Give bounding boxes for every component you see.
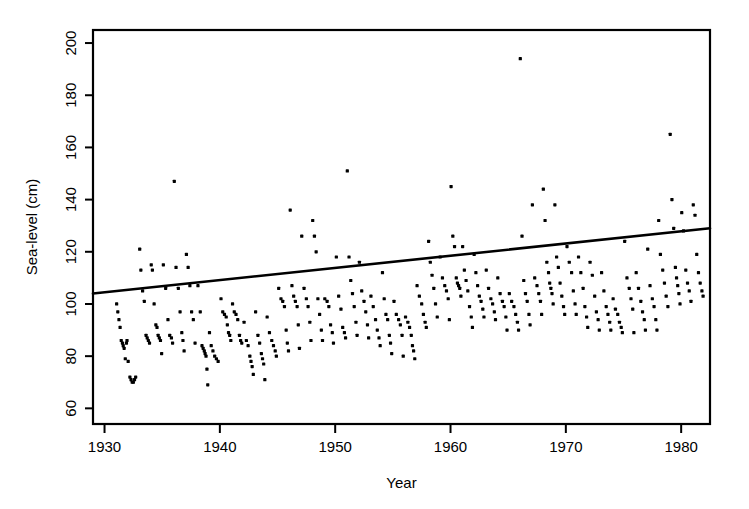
data-point	[297, 323, 300, 326]
data-point	[522, 279, 525, 282]
y-tick-label: 100	[62, 291, 79, 316]
data-point	[621, 331, 624, 334]
data-point	[174, 266, 177, 269]
data-point	[305, 297, 308, 300]
data-point	[148, 342, 151, 345]
data-point	[369, 295, 372, 298]
data-point	[533, 276, 536, 279]
data-point	[225, 315, 228, 318]
data-point	[183, 349, 186, 352]
data-point	[384, 313, 387, 316]
data-point	[339, 308, 342, 311]
data-point	[353, 305, 356, 308]
data-point	[503, 305, 506, 308]
x-tick-label: 1950	[318, 438, 351, 455]
data-point	[543, 219, 546, 222]
data-point	[644, 328, 647, 331]
data-point	[470, 315, 473, 318]
data-point	[285, 328, 288, 331]
data-point	[586, 326, 589, 329]
data-point	[343, 331, 346, 334]
data-point	[520, 235, 523, 238]
data-point	[545, 261, 548, 264]
data-point	[160, 352, 163, 355]
data-point	[517, 328, 520, 331]
data-point	[639, 300, 642, 303]
data-point	[597, 318, 600, 321]
data-point	[693, 214, 696, 217]
data-point	[242, 321, 245, 324]
data-point	[229, 339, 232, 342]
data-point	[684, 268, 687, 271]
data-point	[388, 334, 391, 337]
data-point	[153, 302, 156, 305]
data-point	[588, 261, 591, 264]
data-point	[616, 313, 619, 316]
data-point	[552, 302, 555, 305]
data-point	[466, 289, 469, 292]
data-point	[548, 281, 551, 284]
data-point	[193, 342, 196, 345]
data-point	[420, 302, 423, 305]
data-point	[383, 297, 386, 300]
data-point	[404, 315, 407, 318]
data-point	[392, 300, 395, 303]
data-point	[575, 313, 578, 316]
data-point	[362, 300, 365, 303]
data-point	[605, 305, 608, 308]
data-point	[231, 302, 234, 305]
data-point	[672, 227, 675, 230]
data-point	[125, 339, 128, 342]
data-point	[400, 334, 403, 337]
data-point	[123, 347, 126, 350]
data-point	[677, 292, 680, 295]
data-point	[555, 255, 558, 258]
data-point	[549, 287, 552, 290]
data-point	[688, 289, 691, 292]
data-point	[519, 57, 522, 60]
data-point	[331, 331, 334, 334]
data-point	[283, 305, 286, 308]
data-point	[272, 344, 275, 347]
data-point	[139, 268, 142, 271]
data-point	[226, 323, 229, 326]
data-point	[669, 133, 672, 136]
data-point	[159, 339, 162, 342]
data-point	[425, 326, 428, 329]
data-point	[150, 263, 153, 266]
data-point	[461, 245, 464, 248]
data-point	[447, 297, 450, 300]
y-tick-label: 120	[62, 239, 79, 264]
data-point	[547, 271, 550, 274]
data-point	[311, 219, 314, 222]
data-point	[591, 274, 594, 277]
data-point	[402, 355, 405, 358]
data-point	[346, 169, 349, 172]
data-point	[270, 339, 273, 342]
data-point	[700, 289, 703, 292]
data-point	[537, 292, 540, 295]
data-point	[326, 300, 329, 303]
data-point	[320, 328, 323, 331]
data-point	[441, 276, 444, 279]
data-point	[309, 339, 312, 342]
data-point	[464, 279, 467, 282]
data-point	[655, 328, 658, 331]
data-point	[206, 383, 209, 386]
data-point	[413, 357, 416, 360]
data-point	[386, 318, 389, 321]
data-point	[298, 347, 301, 350]
data-point	[415, 284, 418, 287]
x-tick-label: 1960	[434, 438, 467, 455]
data-point	[609, 328, 612, 331]
data-point	[657, 219, 660, 222]
x-tick-label: 1940	[203, 438, 236, 455]
data-point	[606, 313, 609, 316]
data-point	[560, 295, 563, 298]
data-point	[661, 268, 664, 271]
data-point	[141, 289, 144, 292]
data-point	[381, 271, 384, 274]
data-point	[579, 271, 582, 274]
data-point	[528, 323, 531, 326]
data-point	[332, 342, 335, 345]
